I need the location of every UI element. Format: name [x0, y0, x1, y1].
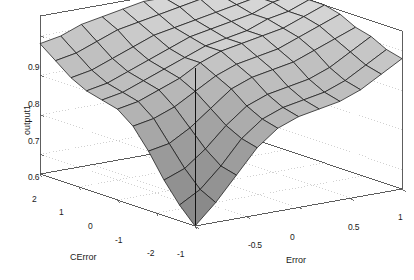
xaxis-title: Error	[286, 255, 306, 265]
ytick-label-0: 2	[32, 194, 37, 204]
xtick-label-4: 1	[398, 212, 403, 222]
xtick-label-1: -0.5	[248, 240, 262, 250]
ztick-label-0: 0.9	[28, 62, 39, 72]
ztick-label-2: 0.7	[28, 136, 39, 146]
zaxis-title: output1	[22, 105, 32, 135]
xtick-label-2: 0	[290, 232, 295, 242]
ytick-label-3: -1	[115, 235, 122, 245]
yaxis-title: CError	[70, 252, 97, 262]
ytick-label-4: -2	[147, 248, 154, 258]
ztick-label-3: 0.6	[28, 172, 39, 182]
xtick-label-3: 0.5	[348, 222, 359, 232]
ytick-label-1: 1	[59, 207, 64, 217]
ytick-label-2: 0	[88, 221, 93, 231]
surface-plot-figure: 0.9 0.8 0.7 0.6 output1 2 1 0 -1 -2 CErr…	[0, 0, 414, 280]
surface-plot-canvas	[0, 0, 414, 280]
xtick-label-0: -1	[177, 249, 184, 259]
